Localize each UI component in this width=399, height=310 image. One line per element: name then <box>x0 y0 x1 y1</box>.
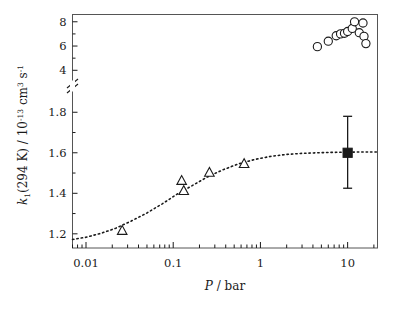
data-series-open-circles <box>313 18 370 51</box>
y-tick-label-lower-2: 1.6 <box>48 146 66 160</box>
y-label-exp3: -1 <box>16 65 25 72</box>
y-tick-label-lower-0: 1.2 <box>48 227 66 241</box>
y-tick-label-upper-0: 4 <box>59 63 66 77</box>
data-point-circle <box>313 43 321 51</box>
data-point-triangle <box>179 186 189 195</box>
data-point-circle <box>359 19 367 27</box>
x-axis-ticks <box>73 242 374 248</box>
y-tick-label-lower-3: 1.8 <box>48 105 66 119</box>
fit-curve <box>73 152 378 240</box>
y-label-exp1: -13 <box>16 109 25 121</box>
figure-container: 1.21.41.61.8468 0.010.1110 P / bar k1(29… <box>0 0 399 310</box>
x-axis-tick-labels: 0.010.1110 <box>73 256 355 270</box>
plot-frame <box>73 15 378 249</box>
x-tick-label-0: 0.01 <box>73 256 99 270</box>
y-axis-break-marks <box>67 79 78 93</box>
y-label-unit2: s <box>16 72 30 82</box>
y-label-temp: (294 K) / 10 <box>16 121 30 193</box>
x-tick-label-2: 1 <box>257 256 264 270</box>
y-label-unit1: cm <box>16 86 30 109</box>
x-axis-label-units: / bar <box>213 279 246 293</box>
y-label-k: k <box>16 198 30 205</box>
data-point-triangle <box>177 176 187 185</box>
data-series-filled-square <box>343 116 352 188</box>
y-tick-label-lower-1: 1.4 <box>48 186 66 200</box>
data-point-circle <box>350 18 358 26</box>
x-axis-label: P / bar <box>204 279 246 293</box>
x-tick-label-1: 0.1 <box>164 256 182 270</box>
y-axis-tick-labels: 1.21.41.61.8468 <box>48 15 66 241</box>
data-point-triangle <box>205 167 215 176</box>
data-point-square <box>343 148 352 157</box>
data-point-circle <box>362 40 370 48</box>
data-point-circle <box>324 37 332 45</box>
y-tick-label-upper-2: 8 <box>59 15 66 29</box>
scatter-plot: 1.21.41.61.8468 0.010.1110 P / bar k1(29… <box>0 0 399 310</box>
x-tick-label-3: 10 <box>340 256 355 270</box>
data-series-open-triangles <box>117 159 248 235</box>
y-axis-ticks <box>73 22 78 234</box>
y-tick-label-upper-1: 6 <box>59 39 66 53</box>
y-axis-label: k1(294 K) / 10-13 cm3 s-1 <box>16 65 32 205</box>
